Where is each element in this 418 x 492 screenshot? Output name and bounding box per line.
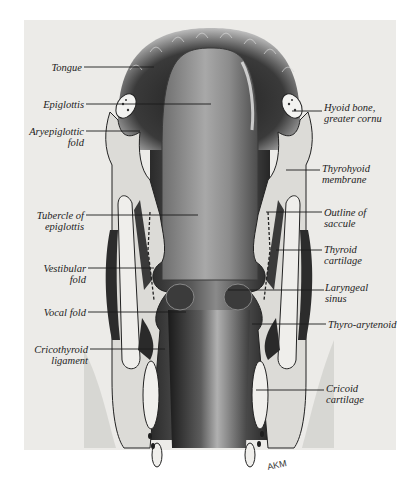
artist-signature: AKM: [266, 458, 287, 472]
label-vocal-fold: Vocal fold: [44, 307, 86, 318]
label-cricothyroid-ligament: Cricothyroidligament: [34, 344, 88, 366]
label-thyroid-cartilage: Thyroidcartilage: [324, 244, 362, 266]
right-cricoid-cartilage: [252, 361, 268, 429]
label-thyro-arytenoid: Thyro-arytenoid: [328, 319, 396, 330]
label-thyrohyoid-membrane: Thyrohyoidmembrane: [322, 163, 370, 185]
label-epiglottis: Epiglottis: [43, 99, 84, 110]
epiglottis-shape: [162, 48, 258, 280]
label-vestibular-fold: Vestibularfold: [43, 263, 86, 285]
label-cricoid-cartilage: Cricoidcartilage: [326, 383, 364, 405]
label-tongue: Tongue: [51, 62, 82, 73]
left-outer-tissue: [84, 350, 116, 448]
label-tubercle-of-epiglottis: Tubercle ofepiglottis: [37, 210, 84, 232]
left-cricoid-cartilage: [143, 361, 159, 429]
label-outline-of-saccule: Outline ofsaccule: [324, 207, 366, 229]
right-laryngeal-sinus: [224, 284, 252, 310]
label-laryngeal-sinus: Laryngealsinus: [325, 282, 368, 304]
subglottic-lumen: [168, 310, 250, 448]
left-laryngeal-sinus: [166, 284, 194, 310]
label-hyoid-bone-greater-cornu: Hyoid bone,greater cornu: [324, 102, 382, 124]
larynx-coronal-diagram: AKM Tongue Epiglottis Aryepiglotticfold …: [0, 0, 418, 492]
label-aryepiglottic-fold: Aryepiglotticfold: [29, 126, 84, 148]
